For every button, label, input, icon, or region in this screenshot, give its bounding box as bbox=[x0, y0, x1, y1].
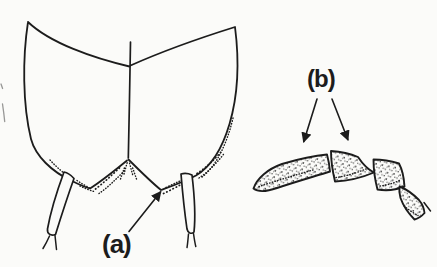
label-b-arrow-left bbox=[304, 99, 317, 142]
label-b-arrow-right bbox=[332, 99, 348, 140]
appendage-left-fork bbox=[43, 236, 57, 250]
label-b: (b) bbox=[307, 67, 335, 91]
line-drawing bbox=[0, 0, 437, 267]
club-segment-3 bbox=[374, 160, 405, 191]
wing-case-right-outline bbox=[129, 27, 238, 190]
figure-canvas: (a) (b) bbox=[0, 0, 437, 267]
midline-seam bbox=[128, 42, 130, 158]
appendage-left bbox=[47, 172, 74, 235]
club-segment-2 bbox=[331, 151, 374, 182]
margin-stippling bbox=[50, 118, 233, 194]
label-a: (a) bbox=[102, 231, 131, 257]
scan-artifact bbox=[1, 84, 5, 122]
club-tip-bristle bbox=[424, 203, 431, 212]
wing-case-left-outline bbox=[24, 22, 129, 189]
appendage-right bbox=[181, 173, 195, 233]
label-a-arrow bbox=[129, 192, 161, 232]
club-segment-1 bbox=[254, 155, 331, 192]
club-appendage-drawing bbox=[254, 151, 431, 220]
club-segment-4 bbox=[399, 187, 424, 220]
appendage-right-fork bbox=[187, 234, 196, 248]
wing-cases-drawing bbox=[24, 22, 237, 190]
